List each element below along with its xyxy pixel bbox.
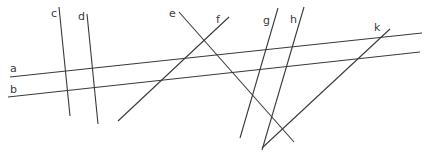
label-g: g: [263, 14, 270, 27]
label-d: d: [78, 10, 85, 23]
label-h: h: [290, 13, 297, 26]
line-e: [179, 12, 294, 142]
line-f: [118, 17, 229, 121]
label-e: e: [169, 7, 176, 20]
line-a: [10, 33, 422, 77]
line-c: [59, 7, 70, 116]
label-k: k: [374, 21, 381, 34]
line-k: [262, 29, 390, 148]
label-b: b: [10, 83, 17, 96]
label-c: c: [51, 7, 57, 20]
label-f: f: [216, 13, 221, 26]
label-a: a: [10, 62, 17, 75]
lines-diagram: a b c d e f g h k: [0, 0, 426, 161]
line-g: [240, 8, 278, 138]
